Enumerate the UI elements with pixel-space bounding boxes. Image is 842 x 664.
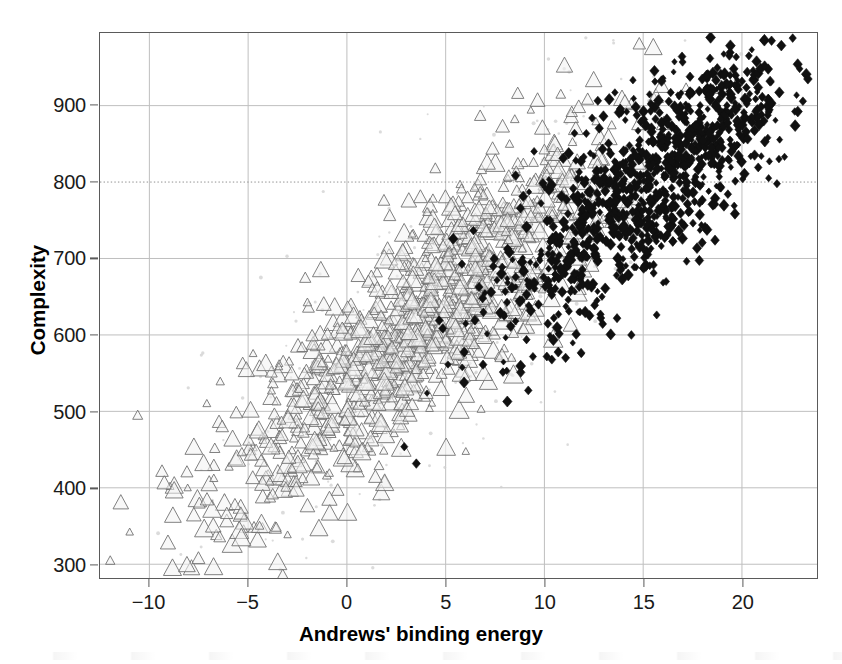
y-tick-mark: [90, 258, 98, 259]
x-tick-mark: [247, 579, 248, 587]
y-tick-mark: [90, 334, 98, 335]
x-tick-mark: [346, 579, 347, 587]
scan-artifact: [0, 652, 842, 660]
x-tick-label: 0: [341, 591, 352, 614]
y-tick-mark: [90, 488, 98, 489]
y-tick-mark: [90, 104, 98, 105]
y-tick-label: 400: [53, 477, 86, 500]
y-tick-label: 800: [53, 170, 86, 193]
x-tick-mark: [544, 579, 545, 587]
y-tick-mark: [90, 565, 98, 566]
x-tick-mark: [643, 579, 644, 587]
y-tick-label: 900: [53, 93, 86, 116]
y-tick-mark: [90, 181, 98, 182]
x-tick-label: 15: [633, 591, 655, 614]
x-tick-mark: [445, 579, 446, 587]
y-tick-label: 600: [53, 324, 86, 347]
x-tick-mark: [742, 579, 743, 587]
data-points: [100, 33, 817, 578]
y-axis-title: Complexity: [26, 200, 50, 400]
x-axis-title: Andrews' binding energy: [0, 622, 842, 646]
scatter-figure: 300400500600700800900 −10−505101520 Andr…: [0, 0, 842, 664]
x-tick-label: 20: [732, 591, 754, 614]
plot-area: [99, 32, 818, 579]
x-tick-label: 10: [534, 591, 556, 614]
y-tick-label: 300: [53, 554, 86, 577]
y-tick-label: 700: [53, 247, 86, 270]
x-tick-label: 5: [440, 591, 451, 614]
x-tick-label: −10: [132, 591, 165, 614]
x-tick-label: −5: [236, 591, 258, 614]
y-tick-label: 500: [53, 400, 86, 423]
x-tick-mark: [148, 579, 149, 587]
y-tick-mark: [90, 411, 98, 412]
